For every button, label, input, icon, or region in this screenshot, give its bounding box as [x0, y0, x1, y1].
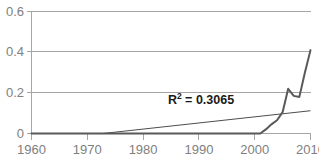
- x-tick-label-1980: 1980: [129, 142, 158, 157]
- chart-container: 0.6 0.4 0.2 0 1960 1970 1980 1990 2000 2…: [0, 0, 319, 160]
- x-tick-label-1970: 1970: [73, 142, 102, 157]
- x-tick-label-2000: 2000: [240, 142, 269, 157]
- r-squared-base: R: [168, 93, 177, 107]
- r-squared-value: = 0.3065: [182, 93, 235, 107]
- x-tick-label-2010: 2010: [296, 142, 319, 157]
- y-tick-label-0.6: 0.6: [6, 4, 24, 19]
- data-series-line: [32, 50, 311, 133]
- y-axis-ticks: [27, 12, 32, 134]
- y-tick-label-0.2: 0.2: [6, 85, 24, 100]
- y-axis-labels: 0.6 0.4 0.2 0: [6, 4, 24, 141]
- chart-plot-area: 0.6 0.4 0.2 0 1960 1970 1980 1990 2000 2…: [0, 0, 319, 160]
- x-axis-labels: 1960 1970 1980 1990 2000 2010: [17, 142, 319, 157]
- trendline-series: [103, 111, 311, 134]
- y-tick-label-0: 0: [17, 126, 24, 141]
- r-squared-annotation: R2 = 0.3065: [168, 91, 234, 107]
- y-tick-label-0.4: 0.4: [6, 44, 24, 59]
- x-tick-label-1960: 1960: [17, 142, 46, 157]
- x-tick-label-1990: 1990: [184, 142, 213, 157]
